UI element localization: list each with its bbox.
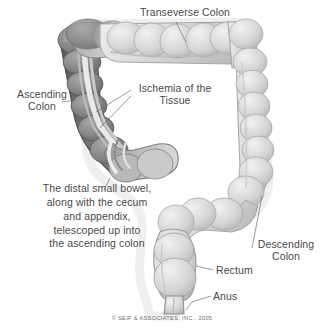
label-anus: Anus	[213, 290, 237, 302]
leader-rectum	[196, 266, 213, 270]
label-rectum: Rectum	[216, 264, 253, 276]
leader-anus-hook	[186, 302, 192, 310]
label-intussusception-caption: The distal small bowel, along with the c…	[33, 182, 161, 251]
copyright-notice: © SEIF & ASSOCIATES, INC., 2005	[0, 315, 324, 322]
anal-canal	[164, 296, 184, 314]
leader-anus	[192, 296, 211, 302]
intussusception-telescoped-bowel	[104, 140, 178, 182]
label-ischemia-of-tissue: Ischemia of the Tissue	[133, 82, 217, 107]
label-transverse-colon: Transeverse Colon	[140, 6, 230, 18]
label-descending-colon: Descending Colon	[250, 238, 322, 263]
label-ascending-colon: Ascending Colon	[6, 88, 78, 113]
colon-illustration	[0, 0, 324, 335]
